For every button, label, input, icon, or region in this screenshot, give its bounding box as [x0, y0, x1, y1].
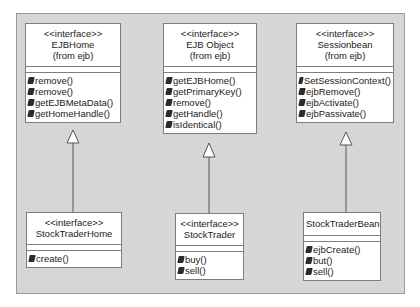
method-icon [177, 267, 184, 274]
operations-compartment: getEJBHome() getPrimaryKey() remove() ge… [164, 72, 256, 133]
package-label: (from ejb) [299, 50, 391, 61]
operation: remove() [166, 97, 254, 108]
stereotype: <<interface>> [178, 218, 241, 229]
method-icon [165, 110, 172, 117]
method-icon [27, 110, 34, 117]
method-icon [27, 99, 34, 106]
package-label: (from ejb) [28, 50, 118, 61]
operation: create() [29, 253, 119, 264]
uml-diagram: <<interface>> EJBHome (from ejb) remove(… [0, 0, 420, 307]
package-label: (from ejb) [166, 50, 254, 61]
class-name: EJBHome [28, 39, 118, 50]
class-sessionbean[interactable]: <<interface>> Sessionbean (from ejb) Set… [296, 23, 394, 123]
method-icon [27, 88, 34, 95]
class-name: Sessionbean [299, 39, 391, 50]
operations-compartment: buy() sell() [176, 251, 243, 279]
method-icon [28, 255, 35, 262]
method-icon [298, 99, 305, 106]
method-icon [298, 88, 305, 95]
stereotype: <<interface>> [28, 28, 118, 39]
operation: isIdentical() [166, 119, 254, 130]
operations-compartment: ejbCreate() but() sell() [304, 241, 380, 280]
class-name: StockTrader [178, 229, 241, 240]
operation: remove() [28, 75, 118, 86]
operations-compartment: remove() remove() getEJBMetaData() getHo… [26, 72, 120, 122]
stereotype: <<interface>> [29, 217, 119, 228]
method-icon [165, 88, 172, 95]
class-stocktraderbean[interactable]: StockTraderBean ejbCreate() but() sell() [303, 212, 381, 281]
class-ejbhome[interactable]: <<interface>> EJBHome (from ejb) remove(… [25, 23, 121, 123]
stereotype: <<interface>> [299, 28, 391, 39]
operation: remove() [28, 86, 118, 97]
class-stocktrader[interactable]: <<interface>> StockTrader buy() sell() [175, 213, 244, 280]
operation: getPrimaryKey() [166, 86, 254, 97]
operation: ejbRemove() [299, 86, 391, 97]
method-icon [165, 99, 172, 106]
method-icon [305, 246, 312, 253]
operation: getEJBHome() [166, 75, 254, 86]
operations-compartment: SetSessionContext() ejbRemove() ejbActiv… [297, 72, 393, 122]
operation: sell() [178, 265, 241, 276]
method-icon [177, 256, 184, 263]
operation: getHomeHandle() [28, 108, 118, 119]
operations-compartment: create() [27, 250, 121, 267]
operation: getHandle() [166, 108, 254, 119]
method-icon [27, 77, 34, 84]
method-icon [165, 77, 172, 84]
class-name: StockTraderBean [306, 218, 378, 229]
operation: but() [306, 255, 378, 266]
generalization-arrow-icon [340, 132, 352, 145]
class-name: EJB Object [166, 39, 254, 50]
operation: SetSessionContext() [299, 75, 391, 86]
method-icon [298, 110, 305, 117]
method-icon [305, 268, 312, 275]
generalization-arrow-icon [67, 130, 79, 143]
operation: ejbActivate() [299, 97, 391, 108]
operation: ejbPassivate() [299, 108, 391, 119]
generalization-arrow-icon [203, 143, 215, 157]
method-icon [305, 257, 312, 264]
operation: buy() [178, 254, 241, 265]
method-icon [165, 121, 172, 128]
operation: getEJBMetaData() [28, 97, 118, 108]
class-ejb-object[interactable]: <<interface>> EJB Object (from ejb) getE… [163, 23, 257, 134]
operation: ejbCreate() [306, 244, 378, 255]
operation: sell() [306, 266, 378, 277]
method-icon [298, 77, 303, 84]
class-name: StockTraderHome [29, 228, 119, 239]
stereotype: <<interface>> [166, 28, 254, 39]
class-stocktraderhome[interactable]: <<interface>> StockTraderHome create() [26, 212, 122, 268]
